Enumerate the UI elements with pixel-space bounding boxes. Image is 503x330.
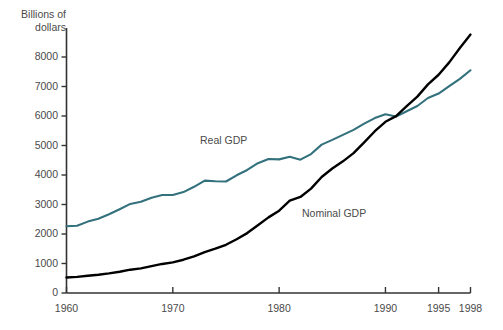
y-tick-label: 8000 — [10, 50, 58, 62]
series-label-nominal-gdp: Nominal GDP — [302, 207, 366, 219]
series-label-real-gdp: Real GDP — [200, 134, 247, 146]
x-tick-label: 1998 — [451, 302, 491, 314]
series-line-real-gdp — [67, 70, 471, 226]
y-axis-title-line1: Billions of — [21, 8, 66, 20]
x-tick-label: 1980 — [259, 302, 299, 314]
y-tick-label: 3000 — [10, 198, 58, 210]
x-axis-ticks — [67, 287, 471, 293]
y-tick-label: 1000 — [10, 257, 58, 269]
y-tick-label: 2000 — [10, 227, 58, 239]
series-line-nominal-gdp — [67, 35, 471, 278]
y-axis-title: Billions ofdollars — [4, 8, 66, 34]
y-tick-label: 4000 — [10, 168, 58, 180]
x-tick-label: 1960 — [47, 302, 87, 314]
chart-canvas — [0, 0, 503, 330]
x-tick-label: 1990 — [365, 302, 405, 314]
y-axis-title-line2: dollars — [35, 21, 66, 33]
y-tick-label: 6000 — [10, 109, 58, 121]
y-tick-label: 7000 — [10, 80, 58, 92]
y-tick-label: 0 — [10, 286, 58, 298]
x-tick-label: 1970 — [153, 302, 193, 314]
gdp-line-chart: Billions ofdollars 010002000300040005000… — [0, 0, 503, 330]
y-tick-label: 5000 — [10, 139, 58, 151]
